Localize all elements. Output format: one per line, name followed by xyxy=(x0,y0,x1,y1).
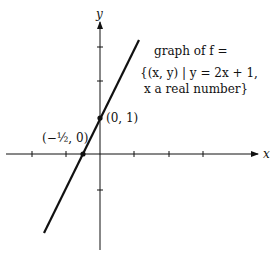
caption-line-1: graph of f = xyxy=(154,45,228,57)
point-label-x-intercept: (−½, 0) xyxy=(42,132,88,144)
point-label-y-intercept: (0, 1) xyxy=(106,112,138,124)
point-x-intercept xyxy=(80,151,85,156)
y-axis-label: y xyxy=(96,8,103,20)
y-axis xyxy=(97,22,103,250)
caption-line-2: {(x, y) | y = 2x + 1, xyxy=(140,67,258,79)
coordinate-plane xyxy=(0,0,275,257)
x-axis-label: x xyxy=(263,148,270,160)
caption-line-3: x a real number} xyxy=(144,83,248,95)
point-y-intercept xyxy=(97,115,102,120)
x-axis xyxy=(6,151,258,157)
